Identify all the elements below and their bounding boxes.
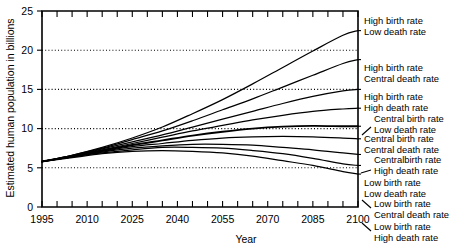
ann-8-line1: Low birth rate [374, 198, 431, 209]
population-projection-figure: 19952010202520402055207020852100 0510152… [0, 0, 474, 251]
ann-6-line1: Centralbirth rate [374, 154, 441, 165]
y-axis-title: Estimated human population in billions [4, 18, 16, 197]
y-tick-label-20: 20 [21, 44, 33, 56]
x-tick-label-2025: 2025 [121, 213, 145, 225]
y-axis-tick-labels: 0510152025 [21, 5, 33, 213]
ann-4-line1: Central birth rate [374, 113, 444, 124]
chart-canvas: 19952010202520402055207020852100 0510152… [0, 0, 474, 251]
ann-1-line1: High birth rate [364, 15, 423, 26]
ann-8-line2: Central death rate [374, 209, 449, 220]
y-tick-label-10: 10 [21, 122, 33, 134]
ann-9-line2: High death rate [374, 232, 438, 243]
ann-6-line2: High death rate [374, 165, 438, 176]
x-tick-label-1995: 1995 [30, 213, 54, 225]
x-tick-label-2070: 2070 [256, 213, 280, 225]
y-tick-label-15: 15 [21, 83, 33, 95]
x-axis-title: Year [235, 233, 257, 245]
ann-2-line1: High birth rate [364, 62, 423, 73]
curve-annotations-group: High birth rateLow death rateHigh birth … [364, 15, 449, 243]
ann-3-line2: High death rate [364, 102, 428, 113]
y-tick-label-5: 5 [27, 162, 33, 174]
x-tick-label-2040: 2040 [166, 213, 190, 225]
ann-9-line1: Low birth rate [374, 221, 431, 232]
ann-3-line1: High birth rate [364, 91, 423, 102]
x-axis-ticks [42, 11, 358, 207]
ann-2-line2: Central death rate [364, 73, 439, 84]
x-tick-label-2085: 2085 [301, 213, 325, 225]
projection-curves-group [42, 31, 358, 174]
y-tick-label-0: 0 [27, 201, 33, 213]
curve-high-birth-low-death [42, 31, 358, 162]
ann-8-leader [362, 200, 371, 208]
axes-group [42, 11, 358, 207]
ann-1-line2: Low death rate [364, 26, 426, 37]
x-tick-label-2010: 2010 [75, 213, 99, 225]
x-tick-label-2100: 2100 [346, 213, 370, 225]
x-tick-label-2055: 2055 [211, 213, 235, 225]
x-axis-tick-labels: 19952010202520402055207020852100 [30, 213, 370, 225]
ann-6-leader [361, 170, 371, 173]
y-tick-label-25: 25 [21, 5, 33, 17]
ann-7-line1: Low birth rate [364, 177, 421, 188]
ann-5-line1: Central birth rate [364, 133, 434, 144]
plot-frame [42, 11, 358, 207]
annotation-leader-lines [358, 31, 371, 231]
